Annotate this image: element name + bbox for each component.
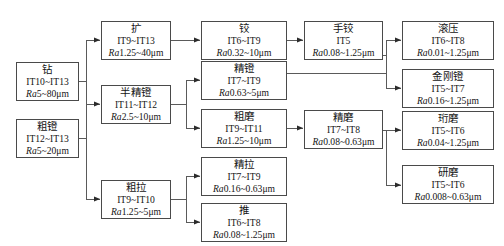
node-zuan-title: 钻 (42, 64, 52, 76)
node-banjingtang-title: 半精镫 (120, 87, 151, 99)
node-shoujiao-roughness: Ra0.08~1.25μm (312, 47, 374, 58)
node-jingla-tolerance: IT7~IT9 (228, 171, 261, 182)
node-jiao-title: 铰 (239, 23, 249, 35)
ra-symbol: Ra (213, 229, 224, 240)
node-shoujiao-tolerance: IT5 (337, 35, 351, 46)
node-zuan[interactable]: 钻 IT10~IT13 Ra5~80μm (16, 62, 79, 101)
node-yanmo-roughness: Ra0.008~0.63μm (415, 191, 482, 202)
ra-symbol: Ra (417, 47, 428, 58)
node-jingtang[interactable]: 精镫 IT7~IT9 Ra0.63~5μm (201, 61, 287, 100)
ra-symbol: Ra (415, 191, 426, 202)
node-cutang-title: 粗镫 (37, 121, 58, 133)
node-gunya-roughness: Ra0.01~1.25μm (417, 47, 479, 58)
node-kuo-tolerance: IT9~IT13 (117, 35, 155, 46)
node-jingtang-title: 精镫 (234, 63, 255, 75)
node-jingangtang-roughness: Ra0.16~1.25μm (417, 95, 479, 106)
ra-symbol: Ra (312, 47, 323, 58)
ra-symbol: Ra (217, 135, 228, 146)
ra-symbol: Ra (109, 47, 120, 58)
node-cumo-title: 粗磨 (234, 111, 255, 123)
node-shoujiao[interactable]: 手铰 IT5 Ra0.08~1.25μm (304, 21, 383, 60)
ra-symbol: Ra (26, 145, 37, 156)
node-jingmo-tolerance: IT7~IT8 (327, 124, 360, 135)
node-yanmo[interactable]: 研磨 IT5~IT6 Ra0.008~0.63μm (402, 165, 494, 204)
node-jingmo-roughness: Ra0.08~0.63μm (312, 136, 374, 147)
node-hengmo[interactable]: 珩磨 IT5~IT6 Ra0.04~1.25μm (402, 111, 494, 150)
node-cutang-roughness: Ra5~20μm (26, 145, 69, 156)
node-tui[interactable]: 推 IT6~IT8 Ra0.08~1.25μm (201, 203, 287, 242)
node-jiao[interactable]: 铰 IT6~IT9 Ra0.32~10μm (201, 21, 287, 60)
node-cula-tolerance: IT9~IT10 (117, 194, 155, 205)
ra-symbol: Ra (111, 111, 122, 122)
node-tui-tolerance: IT6~IT8 (228, 217, 261, 228)
node-tui-title: 推 (239, 205, 249, 217)
node-jingla-title: 精拉 (234, 159, 255, 171)
node-kuo[interactable]: 扩 IT9~IT13 Ra1.25~40μm (101, 21, 171, 60)
node-gunya-title: 滚压 (438, 23, 459, 35)
node-cutang[interactable]: 粗镫 IT12~IT13 Ra5~20μm (16, 119, 79, 158)
node-gunya[interactable]: 滚压 IT6~IT8 Ra0.01~1.25μm (402, 21, 494, 60)
node-cumo-roughness: Ra1.25~10μm (217, 135, 272, 146)
node-banjingtang[interactable]: 半精镫 IT11~IT12 Ra2.5~10μm (101, 85, 171, 124)
process-flow-diagram: 钻 IT10~IT13 Ra5~80μm 粗镫 IT12~IT13 Ra5~20… (0, 0, 504, 246)
node-cumo[interactable]: 粗磨 IT9~IT11 Ra1.25~10μm (201, 109, 287, 148)
node-jingangtang-tolerance: IT5~IT7 (432, 83, 465, 94)
ra-symbol: Ra (111, 206, 122, 217)
node-jiao-tolerance: IT6~IT9 (228, 35, 261, 46)
node-yanmo-title: 研磨 (438, 167, 459, 179)
node-kuo-roughness: Ra1.25~40μm (109, 47, 164, 58)
ra-symbol: Ra (26, 88, 37, 99)
node-jingmo-title: 精磨 (333, 112, 354, 124)
node-cula-title: 粗拉 (126, 182, 147, 194)
node-banjingtang-tolerance: IT11~IT12 (115, 99, 157, 110)
node-yanmo-tolerance: IT5~IT6 (432, 179, 465, 190)
node-jingmo[interactable]: 精磨 IT7~IT8 Ra0.08~0.63μm (304, 110, 383, 149)
node-jingla[interactable]: 精拉 IT7~IT9 Ra0.16~0.63μm (201, 157, 287, 196)
node-jingtang-roughness: Ra0.63~5μm (219, 87, 269, 98)
node-zuan-tolerance: IT10~IT13 (26, 76, 69, 87)
node-tui-roughness: Ra0.08~1.25μm (213, 229, 275, 240)
node-jingtang-tolerance: IT7~IT9 (228, 75, 261, 86)
ra-symbol: Ra (417, 95, 428, 106)
node-jingangtang-title: 金刚镫 (432, 71, 463, 83)
node-shoujiao-title: 手铰 (333, 23, 354, 35)
node-gunya-tolerance: IT6~IT8 (432, 35, 465, 46)
node-banjingtang-roughness: Ra2.5~10μm (111, 111, 161, 122)
node-jiao-roughness: Ra0.32~10μm (217, 47, 272, 58)
ra-symbol: Ra (213, 183, 224, 194)
ra-symbol: Ra (219, 87, 230, 98)
ra-symbol: Ra (417, 137, 428, 148)
node-hengmo-roughness: Ra0.04~1.25μm (417, 137, 479, 148)
ra-symbol: Ra (312, 136, 323, 147)
node-cutang-tolerance: IT12~IT13 (26, 133, 69, 144)
node-hengmo-title: 珩磨 (438, 113, 459, 125)
node-jingla-roughness: Ra0.16~0.63μm (213, 183, 275, 194)
node-cula-roughness: Ra1.25~5μm (111, 206, 161, 217)
node-zuan-roughness: Ra5~80μm (26, 88, 69, 99)
node-hengmo-tolerance: IT5~IT6 (432, 125, 465, 136)
node-kuo-title: 扩 (131, 23, 141, 35)
node-cula[interactable]: 粗拉 IT9~IT10 Ra1.25~5μm (101, 180, 171, 219)
node-jingangtang[interactable]: 金刚镫 IT5~IT7 Ra0.16~1.25μm (402, 69, 494, 108)
node-cumo-tolerance: IT9~IT11 (225, 123, 262, 134)
ra-symbol: Ra (217, 47, 228, 58)
